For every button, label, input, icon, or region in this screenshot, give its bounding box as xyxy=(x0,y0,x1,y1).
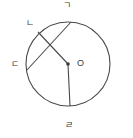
circle-geometry-figure: ㄱ ㄴ ㄷ ㄹ O xyxy=(0,0,133,138)
chord-segment-top-to-left xyxy=(27,22,71,70)
vertex-label-top: ㄱ xyxy=(63,1,71,10)
vertex-label-left: ㄷ xyxy=(11,60,19,69)
radius-segment-upperleft-to-center xyxy=(38,32,68,64)
vertex-label-bottom: ㄹ xyxy=(65,121,73,130)
center-label-o: O xyxy=(77,59,84,68)
geometry-canvas xyxy=(0,0,133,138)
vertex-label-upper-left: ㄴ xyxy=(26,19,34,28)
radius-segment-center-to-bottom xyxy=(68,64,70,106)
center-point-dot xyxy=(66,62,70,66)
